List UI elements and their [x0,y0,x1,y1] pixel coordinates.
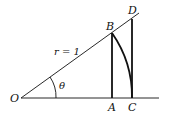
angle-arc [50,77,56,98]
trig-diagram: O A B C D r = 1 θ [0,0,169,114]
label-b: B [105,20,114,33]
label-theta: θ [59,80,65,91]
label-d: D [127,4,137,17]
label-o: O [10,92,19,105]
ray-ob [21,13,139,98]
arc-bc [112,33,132,98]
label-radius: r = 1 [54,46,80,57]
label-a: A [107,101,116,114]
label-c: C [128,101,137,114]
